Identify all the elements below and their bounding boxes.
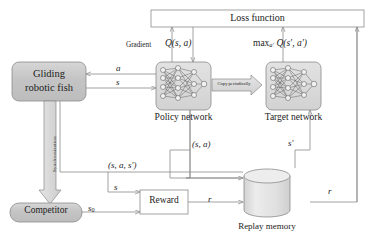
reward-left-label: r bbox=[208, 194, 212, 204]
reward-label: Reward bbox=[140, 196, 188, 206]
gradient-label: Gradient bbox=[126, 41, 151, 49]
loss-function-label: Loss function bbox=[151, 13, 364, 24]
action-a-label: a bbox=[116, 63, 121, 73]
gliding-robotic-fish-label-line2: robotic fish bbox=[12, 82, 86, 93]
max-operator: max bbox=[253, 38, 269, 48]
gliding-robotic-fish-label-line1: Gliding bbox=[12, 68, 86, 79]
max-subscript: a′ bbox=[269, 41, 274, 48]
initial-state-subscript: 0 bbox=[92, 207, 95, 213]
replay-memory-label: Replay memory bbox=[222, 222, 312, 231]
block-replay-memory bbox=[244, 169, 290, 217]
competitor-label: Competitor bbox=[10, 206, 82, 216]
synchronization-label: Synchronization bbox=[52, 136, 57, 172]
tuple-s-a-label: (s, a) bbox=[192, 139, 211, 149]
max-q-expression: Q(s′, a′) bbox=[276, 38, 307, 48]
target-network-label: Target network bbox=[254, 113, 333, 123]
state-s-label: s bbox=[116, 77, 120, 87]
state-to-reward-label: s bbox=[114, 182, 118, 192]
copy-periodically-label: Copy periodically bbox=[214, 81, 254, 86]
tuple-s-a-sprime-label: (s, a, s′) bbox=[108, 160, 136, 170]
reward-right-label: r bbox=[328, 186, 332, 196]
initial-state-label: s0 bbox=[88, 203, 95, 213]
q-s-a-label: Q(s, a) bbox=[165, 38, 191, 48]
block-policy-network bbox=[156, 62, 211, 110]
policy-network-label: Policy network bbox=[144, 113, 223, 123]
block-arrow-synchronization bbox=[39, 101, 61, 204]
max-q-label: maxa′ Q(s′, a′) bbox=[253, 38, 307, 48]
block-target-network bbox=[266, 62, 321, 110]
next-state-label: s′ bbox=[288, 138, 293, 148]
